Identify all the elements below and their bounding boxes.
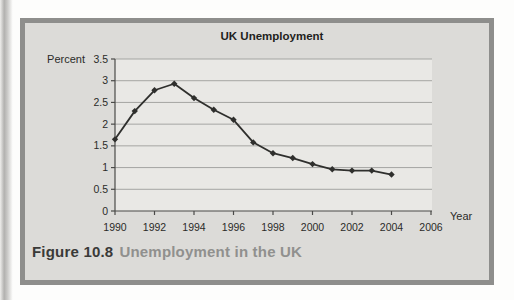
y-tick-label: 3.5 [93, 53, 108, 65]
y-tick-label: 2.5 [93, 96, 108, 108]
x-tick-label: 2002 [340, 221, 364, 233]
figure-number: Figure 10.8 [32, 243, 113, 260]
y-tick-label: 2 [102, 118, 108, 130]
page-edge-shadow [0, 0, 15, 300]
x-tick-label: 2004 [380, 221, 404, 233]
x-tick-label: 1992 [143, 221, 167, 233]
page: 00.511.522.533.5199019921994199619982000… [0, 0, 514, 300]
figure-caption: Figure 10.8Unemployment in the UK [32, 243, 302, 260]
x-tick-label: 1990 [103, 221, 127, 233]
y-axis-label: Percent [47, 53, 85, 65]
x-tick-label: 1994 [182, 221, 206, 233]
y-tick-label: 0 [102, 205, 108, 217]
figure-title: Unemployment in the UK [119, 243, 302, 260]
y-tick-label: 0.5 [93, 183, 108, 195]
y-tick-label: 1 [102, 161, 108, 173]
y-tick-label: 1.5 [93, 139, 108, 151]
x-tick-label: 1996 [222, 221, 246, 233]
x-tick-label: 1998 [261, 221, 285, 233]
y-tick-label: 3 [102, 74, 108, 86]
unemployment-line-chart: 00.511.522.533.5199019921994199619982000… [25, 23, 489, 247]
plot-area [115, 59, 432, 211]
x-axis-label: Year [450, 210, 473, 222]
figure-box: 00.511.522.533.5199019921994199619982000… [20, 18, 494, 285]
chart-title: UK Unemployment [221, 30, 324, 42]
x-tick-label: 2006 [419, 221, 443, 233]
x-tick-label: 2000 [301, 221, 325, 233]
